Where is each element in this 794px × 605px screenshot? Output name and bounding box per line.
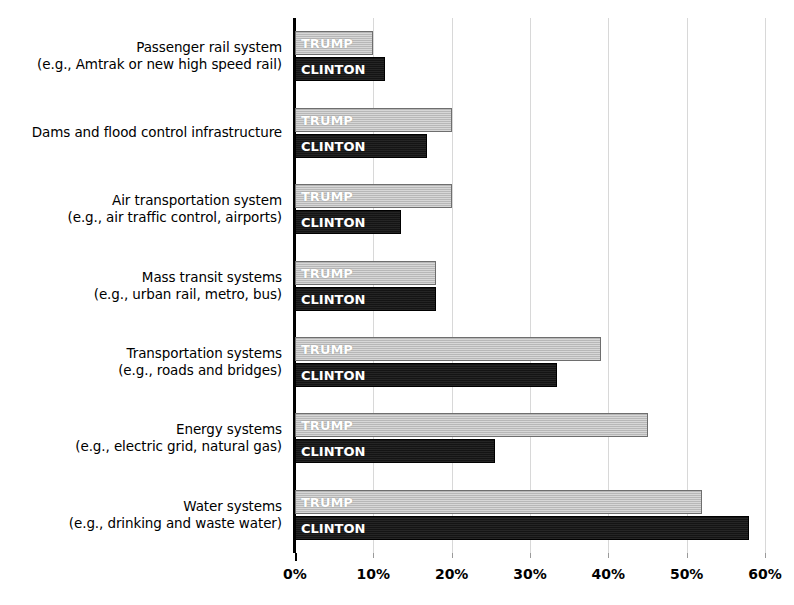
x-axis-label-4: 40% xyxy=(578,566,638,582)
bar-series-label: TRUMP xyxy=(301,112,353,127)
bar-trump-6: TRUMP xyxy=(295,490,702,514)
bar-clinton-3: CLINTON xyxy=(295,287,436,311)
category-label-5: Energy systems(e.g., electric grid, natu… xyxy=(0,421,282,455)
bar-clinton-5: CLINTON xyxy=(295,439,495,463)
category-label-line1: Dams and flood control infrastructure xyxy=(0,124,282,141)
category-label-2: Air transportation system(e.g., air traf… xyxy=(0,192,282,226)
bar-series-label: TRUMP xyxy=(301,189,353,204)
category-label-line2: (e.g., roads and bridges) xyxy=(0,362,282,379)
plot-area: 0%10%20%30%40%50%60%TRUMPCLINTONTRUMPCLI… xyxy=(295,18,765,553)
x-tick-10pct xyxy=(373,553,374,558)
category-label-line2: (e.g., urban rail, metro, bus) xyxy=(0,286,282,303)
gridline-60pct xyxy=(765,18,766,553)
bar-trump-3: TRUMP xyxy=(295,261,436,285)
category-label-4: Transportation systems(e.g., roads and b… xyxy=(0,345,282,379)
x-tick-0pct xyxy=(295,553,297,561)
bar-clinton-1: CLINTON xyxy=(295,134,427,158)
category-label-line2: (e.g., drinking and waste water) xyxy=(0,515,282,532)
bar-series-label: CLINTON xyxy=(301,367,365,382)
x-tick-20pct xyxy=(452,553,453,558)
category-label-line1: Transportation systems xyxy=(0,345,282,362)
bar-clinton-2: CLINTON xyxy=(295,210,401,234)
category-label-1: Dams and flood control infrastructure xyxy=(0,124,282,141)
x-axis-label-5: 50% xyxy=(657,566,717,582)
x-tick-50pct xyxy=(687,553,688,558)
category-label-line1: Air transportation system xyxy=(0,192,282,209)
bar-series-label: TRUMP xyxy=(301,494,353,509)
bar-clinton-0: CLINTON xyxy=(295,57,385,81)
bar-series-label: CLINTON xyxy=(301,520,365,535)
bar-series-label: CLINTON xyxy=(301,215,365,230)
bar-trump-2: TRUMP xyxy=(295,184,452,208)
bar-clinton-4: CLINTON xyxy=(295,363,557,387)
category-label-line1: Energy systems xyxy=(0,421,282,438)
x-axis-label-6: 60% xyxy=(735,566,794,582)
bar-trump-4: TRUMP xyxy=(295,337,601,361)
bar-series-label: CLINTON xyxy=(301,291,365,306)
category-label-line1: Water systems xyxy=(0,498,282,515)
bar-trump-1: TRUMP xyxy=(295,108,452,132)
category-label-line2: (e.g., electric grid, natural gas) xyxy=(0,438,282,455)
horizontal-bar-chart: Passenger rail system(e.g., Amtrak or ne… xyxy=(0,0,794,605)
gridline-30pct xyxy=(530,18,531,553)
bar-series-label: TRUMP xyxy=(301,265,353,280)
bar-series-label: CLINTON xyxy=(301,138,365,153)
category-label-6: Water systems(e.g., drinking and waste w… xyxy=(0,498,282,532)
gridline-20pct xyxy=(452,18,453,553)
category-label-0: Passenger rail system(e.g., Amtrak or ne… xyxy=(0,39,282,73)
cropped-title-strip xyxy=(0,0,794,8)
bar-trump-5: TRUMP xyxy=(295,413,648,437)
category-label-line1: Passenger rail system xyxy=(0,39,282,56)
x-tick-40pct xyxy=(608,553,609,558)
x-axis-label-2: 20% xyxy=(422,566,482,582)
x-axis-label-3: 30% xyxy=(500,566,560,582)
category-label-line2: (e.g., air traffic control, airports) xyxy=(0,209,282,226)
x-tick-60pct xyxy=(765,553,766,558)
gridline-50pct xyxy=(687,18,688,553)
x-axis-label-1: 10% xyxy=(343,566,403,582)
bar-series-label: TRUMP xyxy=(301,418,353,433)
bar-series-label: CLINTON xyxy=(301,444,365,459)
category-label-line2: (e.g., Amtrak or new high speed rail) xyxy=(0,56,282,73)
x-axis-label-0: 0% xyxy=(265,566,325,582)
bar-trump-0: TRUMP xyxy=(295,31,373,55)
category-label-line1: Mass transit systems xyxy=(0,269,282,286)
x-tick-30pct xyxy=(530,553,531,558)
bar-clinton-6: CLINTON xyxy=(295,516,749,540)
bar-series-label: TRUMP xyxy=(301,36,353,51)
y-axis-line xyxy=(293,18,296,553)
category-label-3: Mass transit systems(e.g., urban rail, m… xyxy=(0,269,282,303)
gridline-10pct xyxy=(373,18,374,553)
category-axis-labels: Passenger rail system(e.g., Amtrak or ne… xyxy=(0,18,288,553)
bar-series-label: CLINTON xyxy=(301,62,365,77)
bar-series-label: TRUMP xyxy=(301,341,353,356)
gridline-40pct xyxy=(608,18,609,553)
